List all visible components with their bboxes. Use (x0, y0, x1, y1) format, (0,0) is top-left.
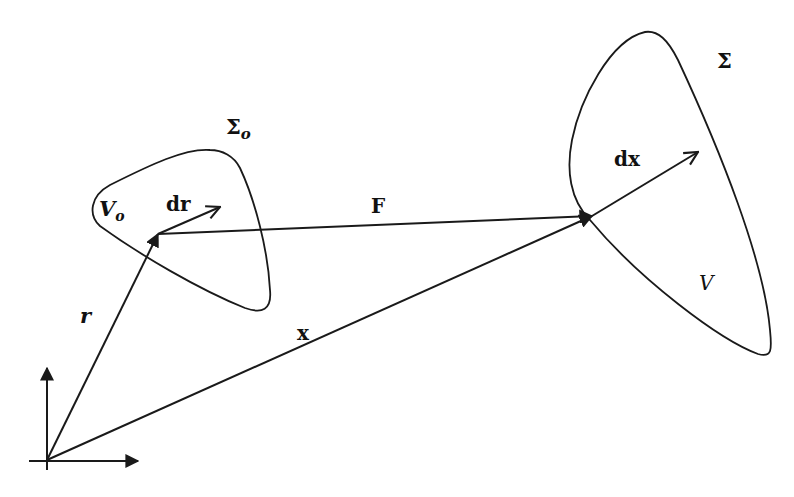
label-dr: dr (166, 192, 191, 216)
current-body-boundary (569, 32, 771, 355)
vector-dx (592, 152, 698, 216)
label-sigma-o: Σo (226, 114, 251, 143)
vector-r (47, 234, 158, 460)
deformation-diagram: Σo Vo dr F Σ dx V r x (0, 0, 794, 497)
vector-F (158, 216, 592, 234)
label-r: r (80, 303, 93, 328)
label-dx: dx (614, 147, 641, 171)
vector-x (47, 216, 592, 460)
label-V-o: Vo (99, 196, 125, 224)
label-F: F (371, 194, 385, 218)
label-V: V (699, 271, 716, 295)
label-sigma: Σ (717, 48, 732, 73)
label-x: x (297, 321, 310, 345)
coordinate-axes (29, 368, 138, 470)
